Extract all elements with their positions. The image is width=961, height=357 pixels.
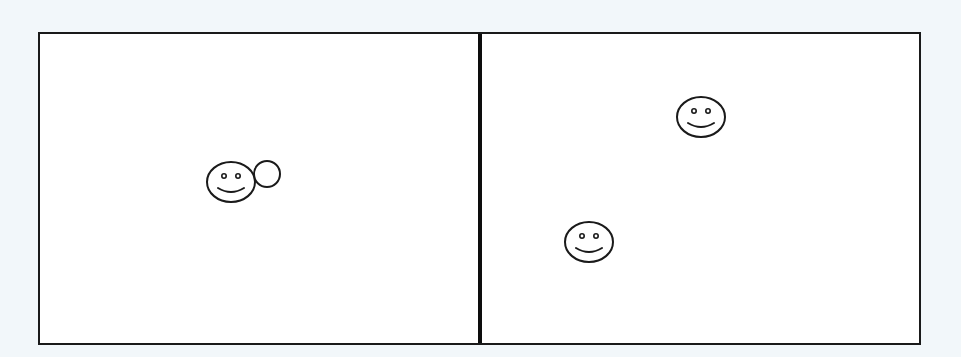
panel-divider bbox=[478, 34, 482, 343]
diagram-stage bbox=[0, 0, 961, 357]
diagram-frame bbox=[38, 32, 921, 345]
